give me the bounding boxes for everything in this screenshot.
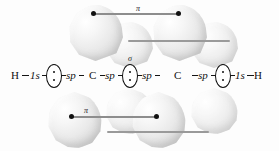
sigma-electron-right-bottom: [222, 79, 224, 81]
p-orbital-lobe-c2-rear-down: [190, 88, 238, 134]
pi-electron-upper-right: [176, 11, 181, 16]
orbital-label-sp-c2-left: sp: [142, 69, 152, 81]
pi-bond-line-front-lower: [72, 116, 158, 118]
atom-label-h-left: H: [11, 69, 19, 81]
sigma-overlap-oval-center: [122, 64, 138, 88]
orbital-label-sp-c1-right: sp: [105, 69, 115, 81]
pi-bond-line-rear-upper: [128, 40, 230, 42]
sigma-overlap-oval-left: [46, 64, 62, 88]
sigma-electron-center-bottom: [129, 79, 131, 81]
sigma-overlap-oval-right: [215, 64, 231, 88]
sigma-electron-left-bottom: [53, 79, 55, 81]
sigma-electron-right-top: [222, 71, 224, 73]
atom-label-carbon-left: C: [89, 69, 96, 81]
atom-notation-row: H 1s sp C sp sp C sp: [0, 62, 279, 90]
atom-label-carbon-right: C: [174, 69, 181, 81]
pi-label-bottom: π: [84, 107, 88, 115]
pi-label-top: π: [136, 5, 140, 13]
bond-dash-sp-c2: [155, 75, 160, 76]
atom-label-h-right: H: [254, 69, 262, 81]
orbital-label-sp-c2-right: sp: [198, 69, 208, 81]
bond-dash-sp-c1: [79, 75, 84, 76]
sigma-electron-left-top: [53, 71, 55, 73]
pi-electron-lower-left: [69, 114, 74, 119]
orbital-label-1s-right: 1s: [235, 69, 245, 81]
orbital-label-1s-left: 1s: [30, 69, 40, 81]
orbital-label-sp-c1-left: sp: [66, 69, 76, 81]
sigma-label-center: σ: [128, 55, 132, 63]
pi-bond-line-rear-lower: [107, 131, 209, 133]
p-orbital-lobe-c1-front-down: [47, 92, 102, 148]
orbital-diagram-figure: π π H 1s sp C sp: [0, 0, 279, 151]
pi-electron-upper-left: [91, 11, 96, 16]
pi-bond-line-front-upper: [94, 13, 180, 15]
bond-dash-h1-1s: [22, 75, 29, 76]
bond-dash-1s-h2: [247, 75, 254, 76]
sigma-electron-center-top: [129, 71, 131, 73]
pi-electron-lower-right: [154, 114, 159, 119]
